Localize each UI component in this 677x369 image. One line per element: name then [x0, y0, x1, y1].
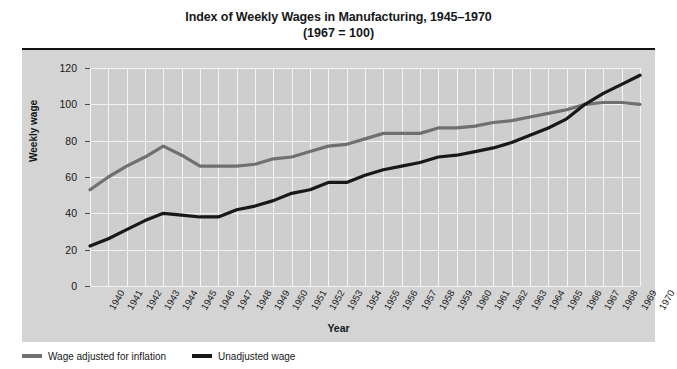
legend-item: Unadjusted wage [192, 351, 295, 362]
x-axis-tick-label: 1954 [363, 288, 383, 312]
legend-label: Wage adjusted for inflation [48, 351, 166, 362]
chart-title-block: Index of Weekly Wages in Manufacturing, … [22, 0, 655, 48]
x-axis-tick-label: 1968 [620, 288, 640, 312]
x-axis-tick-label: 1941 [125, 288, 145, 312]
legend-swatch-icon [192, 354, 212, 358]
x-axis-tick-label: 1959 [455, 288, 475, 312]
x-axis-tick-label: 1948 [253, 288, 273, 312]
x-axis-tick-label: 1949 [272, 288, 292, 312]
legend-swatch-icon [22, 354, 42, 358]
x-axis-tick-label: 1950 [290, 288, 310, 312]
y-axis-tick-label: 80 [65, 135, 77, 147]
y-axis-tick-label: 0 [71, 280, 77, 292]
y-axis-tick-label: 40 [65, 207, 77, 219]
x-axis-tick-label: 1970 [657, 288, 677, 312]
x-axis-tick-label: 1943 [162, 288, 182, 312]
x-axis-tick-label: 1944 [180, 288, 200, 312]
plot-area [90, 68, 640, 286]
gridline-vertical [640, 68, 641, 286]
chart-subtitle: (1967 = 100) [22, 26, 655, 41]
chart-legend: Wage adjusted for inflationUnadjusted wa… [22, 348, 655, 364]
x-axis-tick-label: 1967 [602, 288, 622, 312]
x-axis-tick-label: 1956 [400, 288, 420, 312]
x-axis-tick-label: 1942 [143, 288, 163, 312]
x-axis-title: Year [22, 322, 655, 334]
x-axis-tick-label: 1947 [235, 288, 255, 312]
series-line [90, 75, 640, 246]
chart-title: Index of Weekly Wages in Manufacturing, … [22, 10, 655, 25]
y-axis-tick-label: 120 [59, 62, 77, 74]
y-axis-tick-label: 100 [59, 98, 77, 110]
x-axis-tick-label: 1966 [583, 288, 603, 312]
x-axis-tick-label: 1955 [382, 288, 402, 312]
chart-panel: Weekly wage 020406080100120 194019411942… [22, 48, 655, 342]
x-axis-tick-label: 1946 [217, 288, 237, 312]
x-axis-tick-label: 1960 [473, 288, 493, 312]
x-axis-tick-label: 1940 [107, 288, 127, 312]
y-axis-tick [85, 286, 90, 287]
series-lines [90, 68, 640, 286]
x-axis-tick-label: 1957 [418, 288, 438, 312]
x-axis-tick-label: 1963 [528, 288, 548, 312]
x-axis-tick-label: 1969 [638, 288, 658, 312]
gridline-horizontal [90, 286, 640, 287]
x-axis-tick-label: 1953 [345, 288, 365, 312]
x-axis-tick-label: 1945 [198, 288, 218, 312]
x-axis-tick-label: 1952 [327, 288, 347, 312]
legend-item: Wage adjusted for inflation [22, 351, 166, 362]
x-axis-tick-label: 1961 [492, 288, 512, 312]
x-axis-tick-label: 1958 [437, 288, 457, 312]
y-axis-tick-label: 60 [65, 171, 77, 183]
y-axis-tick-label: 20 [65, 244, 77, 256]
x-axis-tick-label: 1964 [547, 288, 567, 312]
legend-label: Unadjusted wage [218, 351, 295, 362]
x-axis-tick-label: 1951 [308, 288, 328, 312]
x-axis-tick-label: 1965 [565, 288, 585, 312]
x-axis-tick-label: 1962 [510, 288, 530, 312]
y-axis-tick-labels: 020406080100120 [22, 68, 84, 286]
